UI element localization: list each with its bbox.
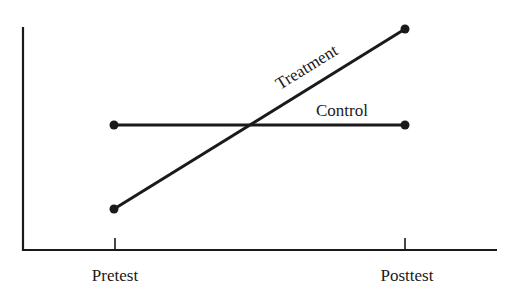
posttest-label: Posttest [381, 266, 434, 285]
treatment-label: Treatment [272, 41, 341, 94]
treatment-pretest-point [110, 205, 119, 214]
pretest-label: Pretest [92, 266, 139, 285]
pretest-posttest-diagram: Treatment Control Pretest Posttest [0, 0, 518, 293]
treatment-posttest-point [401, 25, 410, 34]
control-posttest-point [401, 121, 410, 130]
control-pretest-point [110, 121, 119, 130]
control-label: Control [316, 101, 368, 120]
